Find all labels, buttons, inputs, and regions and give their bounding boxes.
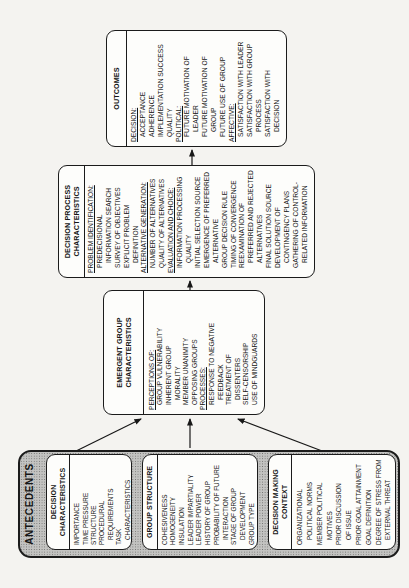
text-line: OF ISSUE bbox=[344, 458, 354, 540]
text-line: NUMBER OF ALTERNATIVES bbox=[149, 169, 158, 268]
decision-making-context-title: DECISION MAKINGCONTEXT bbox=[269, 455, 289, 549]
decision-process-characteristics-title: DECISION PROCESSCHARACTERISTICS bbox=[59, 166, 81, 277]
text-line: ALTERNATIVE bbox=[212, 169, 221, 263]
text-line: PROCESS bbox=[255, 34, 264, 132]
section-header-line: POLITICAL: bbox=[175, 34, 184, 142]
section-header-line: PROCESSES: bbox=[199, 294, 208, 410]
text-line: FEEDBACK bbox=[217, 294, 226, 400]
text-line: COHESIVENESS bbox=[161, 458, 170, 545]
text-line: GROUP VULNERABILITY bbox=[156, 294, 165, 405]
text-line: CHARACTERISTICS bbox=[72, 166, 81, 277]
text-line: SATISFACTION WITH GROUP bbox=[246, 34, 255, 137]
text-line: ALTERNATIVES bbox=[256, 169, 265, 263]
text-line: DISSENTERS bbox=[234, 294, 243, 400]
text-line: IMPLEMENTATION SUCCESS bbox=[157, 34, 166, 137]
text-line: QUALITY bbox=[166, 34, 175, 137]
text-line: CHARACTERISTICS bbox=[124, 291, 133, 414]
text-line: PREDECISIONAL bbox=[96, 169, 105, 268]
arrow-decision-making-context-to-emergent bbox=[238, 419, 330, 454]
text-line: OUTCOMES bbox=[112, 31, 122, 146]
section-header-line: ALTERNATIVE GENERATION: bbox=[140, 169, 149, 273]
text-line: SATISFACTION WITH LEADER bbox=[237, 34, 246, 137]
text-line: SURVEY OF OBJECTIVES bbox=[114, 169, 123, 268]
section-header-line: EVALUATION AND CHOICE: bbox=[167, 169, 176, 273]
text-line: REQUIREMENTS bbox=[107, 458, 115, 540]
text-line: DECISION bbox=[273, 34, 282, 132]
text-line: EXTERNAL THREAT bbox=[383, 458, 393, 540]
text-line: DECISION PROCESS bbox=[63, 166, 72, 277]
text-line: GROUP TYPE bbox=[248, 458, 257, 545]
antecedents-section: ANTECEDENTS DECISIONCHARACTERISTICS IMPO… bbox=[18, 450, 400, 558]
text-line: CONTINGENCY PLANS bbox=[283, 169, 292, 263]
text-line: SATISFACTION WITH bbox=[264, 34, 273, 137]
text-line: RELATED INFORMATION bbox=[301, 169, 310, 263]
outcomes-items: DECISION:ACCEPTANCEADHERENCEIMPLEMENTATI… bbox=[127, 31, 281, 146]
text-line: MEMBER POLITICAL bbox=[315, 458, 325, 545]
text-line: MEMBER UNANIMITY bbox=[182, 294, 191, 405]
text-line: CHARACTERISTICS bbox=[124, 458, 132, 540]
outcomes-title: OUTCOMES bbox=[107, 31, 122, 146]
text-line: IMPORTANCE bbox=[73, 458, 81, 545]
emergent-group-characteristics-box: EMERGENT GROUPCHARACTERISTICS PERCEPTION… bbox=[103, 290, 265, 415]
text-line: LEADER IMPARTIALITY bbox=[187, 458, 196, 545]
text-line: EMERGENT GROUP bbox=[115, 291, 124, 414]
section-header-line: PERCEPTIONS OF: bbox=[148, 294, 157, 410]
section-header-line: AFFECTIVE: bbox=[228, 34, 237, 142]
text-line: GROUP DECISION RULE bbox=[221, 169, 230, 268]
emergent-group-characteristics-items: PERCEPTIONS OF:GROUP VULNERABILITYINHERE… bbox=[144, 291, 260, 414]
decision-characteristics-items: IMPORTANCETIME PRESSURESTRUCTUREPROCEDUR… bbox=[70, 455, 132, 549]
section-header-line: DECISION: bbox=[130, 34, 139, 142]
text-line: GATHERING OF CONTROL- bbox=[292, 169, 301, 268]
text-line: TIME PRESSURE bbox=[82, 458, 90, 545]
text-line: DECISION bbox=[50, 455, 59, 549]
text-line: OPPOSING GROUPS bbox=[191, 294, 200, 405]
text-line: DECISION MAKING bbox=[272, 455, 281, 549]
decision-making-context-items: ORGANIZATIONALPOLITICAL NORMSMEMBER POLI… bbox=[292, 455, 393, 549]
text-line: MORALITY bbox=[174, 294, 183, 400]
text-line: ADHERENCE bbox=[148, 34, 157, 137]
text-line: PROBABILITY OF FUTURE bbox=[213, 458, 222, 545]
text-line: GROUP STRUCTURE bbox=[146, 455, 155, 549]
text-line: DEVELOPMENT bbox=[239, 458, 248, 540]
text-line: DEGREE OF STRESS FROM bbox=[374, 458, 384, 545]
text-line: PRIOR GOAL ATTAINMENT bbox=[354, 458, 364, 545]
decision-process-characteristics-box: DECISION PROCESSCHARACTERISTICS PROBLEM … bbox=[58, 165, 315, 278]
group-structure-box: GROUP STRUCTURE COHESIVENESSHOMOGENEITYI… bbox=[142, 454, 258, 550]
text-line: LEADER POWER bbox=[195, 458, 204, 545]
emergent-group-characteristics-title: EMERGENT GROUPCHARACTERISTICS bbox=[104, 291, 134, 414]
text-line: FINAL SOLUTION SOURCE bbox=[265, 169, 274, 268]
text-line: STAGE OF GROUP bbox=[230, 458, 239, 545]
decision-process-characteristics-items: PROBLEM IDENTIFICATION:PREDECISIONALINFO… bbox=[85, 166, 310, 277]
text-line: ORGANIZATIONAL bbox=[295, 458, 305, 545]
antecedents-title: ANTECEDENTS bbox=[20, 452, 35, 556]
text-line: GROUP bbox=[210, 34, 219, 132]
outcomes-box: OUTCOMES DECISION:ACCEPTANCEADHERENCEIMP… bbox=[106, 30, 287, 147]
text-line: FUTURE MOTIVATION OF bbox=[201, 34, 210, 137]
text-line: QUALITY bbox=[185, 169, 194, 263]
text-line: TASK bbox=[115, 458, 123, 545]
section-header-line: PROBLEM IDENTIFICATION: bbox=[87, 169, 96, 273]
text-line: PRIOR DISCUSSION bbox=[334, 458, 344, 545]
text-line: INFORMATION PROCESSING bbox=[176, 169, 185, 268]
text-line: HOMOGENEITY bbox=[169, 458, 178, 545]
text-line: REEXAMINATION OF bbox=[238, 169, 247, 268]
decision-making-context-box: DECISION MAKINGCONTEXT ORGANIZATIONALPOL… bbox=[268, 454, 396, 550]
text-line: CONTEXT bbox=[281, 455, 290, 549]
text-line: PREFERRED AND REJECTED bbox=[247, 169, 256, 263]
text-line: DEFINITION bbox=[132, 169, 141, 263]
text-line: INITIAL SELECTION SOURCE bbox=[194, 169, 203, 268]
text-line: CHARACTERISTICS bbox=[59, 455, 68, 549]
text-line: USE OF MINDGUARDS bbox=[251, 294, 260, 405]
text-line: INSULATION bbox=[178, 458, 187, 545]
text-line: TIMING OF CONVERGENCE bbox=[230, 169, 239, 268]
text-line: ACCEPTANCE bbox=[139, 34, 148, 137]
text-line: INHERENT GROUP bbox=[165, 294, 174, 405]
text-line: FUTURE USE OF GROUP bbox=[219, 34, 228, 137]
text-line: TREATMENT OF bbox=[225, 294, 234, 405]
text-line: HISTORY OF GROUP bbox=[204, 458, 213, 545]
figure-viewport: ANTECEDENTS DECISIONCHARACTERISTICS IMPO… bbox=[0, 0, 409, 588]
text-line: DEVELOPMENT OF bbox=[274, 169, 283, 268]
ggps-model-diagram: ANTECEDENTS DECISIONCHARACTERISTICS IMPO… bbox=[0, 0, 409, 588]
text-line: GOAL DEFINITION bbox=[364, 458, 374, 545]
group-structure-items: COHESIVENESSHOMOGENEITYINSULATIONLEADER … bbox=[158, 455, 257, 549]
